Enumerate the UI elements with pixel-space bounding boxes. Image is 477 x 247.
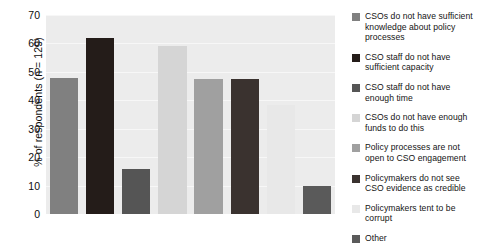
bar bbox=[303, 186, 331, 214]
bar bbox=[267, 105, 295, 214]
legend-swatch-icon bbox=[352, 175, 360, 183]
legend-item-label: Policymakers do not see CSO evidence as … bbox=[365, 173, 477, 194]
legend-item[interactable]: CSOs do not have enough funds to do this bbox=[352, 112, 477, 133]
legend-item-label: CSO staff do not have sufficient capacit… bbox=[365, 52, 477, 73]
legend-item[interactable]: CSO staff do not have enough time bbox=[352, 82, 477, 103]
bar bbox=[194, 79, 222, 214]
legend-item-label: Other bbox=[365, 233, 387, 244]
y-axis-tick-label: 70 bbox=[28, 9, 40, 21]
plot-area bbox=[46, 15, 335, 214]
legend-item-label: CSOs do not have enough funds to do this bbox=[365, 112, 477, 133]
legend-swatch-icon bbox=[352, 235, 360, 243]
legend-item-label: Policymakers tent to be corrupt bbox=[365, 203, 477, 224]
legend-swatch-icon bbox=[352, 205, 360, 213]
bar bbox=[86, 38, 114, 214]
legend-swatch-icon bbox=[352, 13, 360, 21]
legend-item[interactable]: CSOs do not have sufficient knowledge ab… bbox=[352, 11, 477, 43]
y-axis-tick-label: 60 bbox=[28, 37, 40, 49]
bar bbox=[50, 78, 78, 214]
legend-swatch-icon bbox=[352, 84, 360, 92]
legend-item[interactable]: Policymakers tent to be corrupt bbox=[352, 203, 477, 224]
y-axis-tick-label: 30 bbox=[28, 123, 40, 135]
y-axis-tick-label: 0 bbox=[34, 208, 40, 220]
legend-item[interactable]: Policy processes are not open to CSO eng… bbox=[352, 142, 477, 163]
legend-swatch-icon bbox=[352, 114, 360, 122]
legend-swatch-icon bbox=[352, 144, 360, 152]
bar bbox=[122, 169, 150, 214]
y-axis-tick-label: 40 bbox=[28, 94, 40, 106]
y-axis-tick-label: 20 bbox=[28, 151, 40, 163]
legend-item[interactable]: Other bbox=[352, 233, 477, 244]
y-axis-tick-label: 50 bbox=[28, 66, 40, 78]
chart-legend: CSOs do not have sufficient knowledge ab… bbox=[352, 11, 477, 243]
legend-item-label: CSOs do not have sufficient knowledge ab… bbox=[365, 11, 477, 43]
legend-item-label: Policy processes are not open to CSO eng… bbox=[365, 142, 477, 163]
y-axis-tick-labels: 010203040506070 bbox=[0, 0, 44, 247]
bar-chart-figure: % of respondents (n = 129) 0102030405060… bbox=[0, 0, 477, 247]
legend-swatch-icon bbox=[352, 54, 360, 62]
legend-item[interactable]: Policymakers do not see CSO evidence as … bbox=[352, 173, 477, 194]
y-axis-tick-label: 10 bbox=[28, 180, 40, 192]
legend-item-label: CSO staff do not have enough time bbox=[365, 82, 477, 103]
bars-group bbox=[46, 15, 335, 214]
bar bbox=[158, 46, 186, 214]
legend-item[interactable]: CSO staff do not have sufficient capacit… bbox=[352, 52, 477, 73]
bar bbox=[231, 79, 259, 214]
